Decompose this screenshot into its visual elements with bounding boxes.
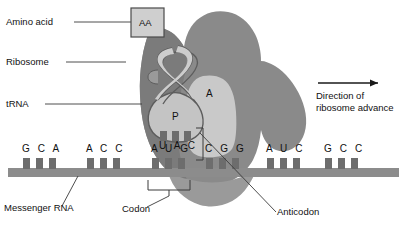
a-site-label: A bbox=[206, 88, 213, 99]
label-trna: tRNA bbox=[6, 98, 29, 109]
amino-acid-box-label: AA bbox=[139, 17, 152, 28]
mrna-codon-3: A U G bbox=[151, 143, 191, 154]
leader-codon bbox=[147, 196, 169, 207]
mrna-backbone bbox=[8, 168, 399, 177]
mrna-codon-2: A C C bbox=[86, 143, 125, 154]
mrna-codon-4: C G G bbox=[205, 143, 246, 154]
mrna-codon-6: G C C bbox=[324, 143, 365, 154]
diagram-canvas bbox=[0, 0, 407, 233]
translation-diagram: Amino acid Ribosome tRNA Messenger RNA C… bbox=[0, 0, 407, 233]
label-codon: Codon bbox=[122, 203, 150, 214]
p-site-label: P bbox=[172, 111, 179, 122]
label-amino-acid: Amino acid bbox=[6, 16, 53, 27]
label-direction-line1: Direction of bbox=[316, 90, 364, 101]
mrna-codon-5: A U C bbox=[266, 143, 305, 154]
label-direction-line2: ribosome advance bbox=[316, 102, 394, 113]
label-anticodon: Anticodon bbox=[277, 206, 319, 217]
mrna-codon-1: G C A bbox=[22, 143, 62, 154]
label-messenger-rna: Messenger RNA bbox=[4, 202, 74, 213]
label-ribosome: Ribosome bbox=[6, 56, 49, 67]
arrow-right-icon bbox=[318, 80, 378, 87]
